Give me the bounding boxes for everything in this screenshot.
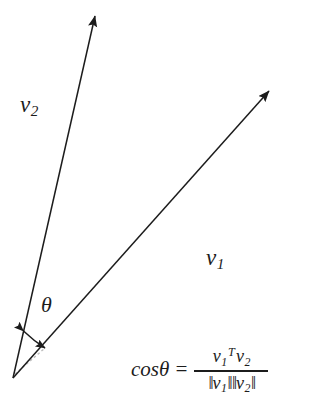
formula-numerator: v1Tv2 — [211, 345, 253, 370]
formula-denominator: ‖v1‖‖v2‖ — [207, 372, 256, 396]
numerator-v1-base: v — [213, 346, 221, 366]
vector-label-v2: v2 — [20, 93, 38, 118]
denominator-v1-subscript: 1 — [220, 381, 226, 395]
formula-left-hand-side: cosθ — [131, 357, 169, 382]
angle-label-theta: θ — [41, 294, 52, 316]
formula-equals-sign: = — [169, 357, 194, 382]
vector-v2-arrow — [13, 16, 95, 378]
numerator-transpose-symbol: T — [227, 345, 236, 359]
formula-fraction: v1Tv2 ‖v1‖‖v2‖ — [194, 345, 268, 396]
numerator-v2-base: v — [236, 346, 244, 366]
vector-label-v2-subscript: 2 — [30, 102, 38, 119]
angle-arc-double-arrow — [24, 331, 46, 348]
denominator-v2-base: v — [236, 373, 244, 393]
vector-label-v2-base: v — [20, 92, 30, 117]
vector-v1-arrow — [13, 91, 269, 378]
vector-label-v1-subscript: 1 — [216, 255, 224, 272]
numerator-v2-subscript: 2 — [244, 355, 250, 369]
cosine-formula: cosθ = v1Tv2 ‖v1‖‖v2‖ — [131, 344, 268, 395]
denominator-norm-close-2: ‖ — [250, 373, 255, 393]
vector-label-v1-base: v — [206, 245, 216, 270]
figure-canvas: v2 v1 θ cosθ = v1Tv2 ‖v1‖‖v2‖ — [0, 0, 310, 411]
vector-label-v1: v1 — [206, 246, 224, 271]
